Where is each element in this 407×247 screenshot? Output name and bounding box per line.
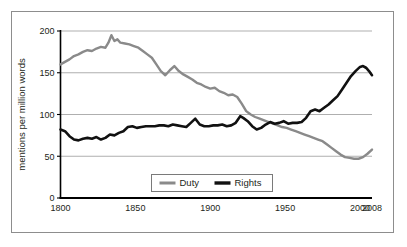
x-tick-label-1900: 1900 bbox=[200, 203, 220, 213]
y-axis-ticks: 050100150200 bbox=[39, 26, 60, 203]
y-axis-title: mentions per million words bbox=[16, 58, 27, 171]
legend-label-rights: Rights bbox=[235, 177, 262, 188]
y-tick-label-50: 50 bbox=[44, 152, 54, 162]
y-tick-label-200: 200 bbox=[39, 26, 54, 36]
x-tick-label-1800: 1800 bbox=[50, 203, 70, 213]
series-group bbox=[61, 35, 373, 159]
x-tick-label-1950: 1950 bbox=[275, 203, 295, 213]
legend: DutyRights bbox=[152, 175, 273, 192]
legend-label-duty: Duty bbox=[180, 177, 200, 188]
x-tick-label-2008: 2008 bbox=[362, 203, 382, 213]
x-tick-label-1850: 1850 bbox=[125, 203, 145, 213]
x-axis-ticks: 180018501900195020002008 bbox=[50, 203, 382, 213]
line-chart: 050100150200180018501900195020002008ment… bbox=[0, 0, 407, 247]
figure-container: 050100150200180018501900195020002008ment… bbox=[0, 0, 407, 247]
y-tick-label-100: 100 bbox=[39, 110, 54, 120]
y-tick-label-150: 150 bbox=[39, 68, 54, 78]
series-line-duty bbox=[61, 35, 373, 159]
series-line-rights bbox=[61, 66, 373, 140]
y-tick-label-0: 0 bbox=[49, 193, 54, 203]
